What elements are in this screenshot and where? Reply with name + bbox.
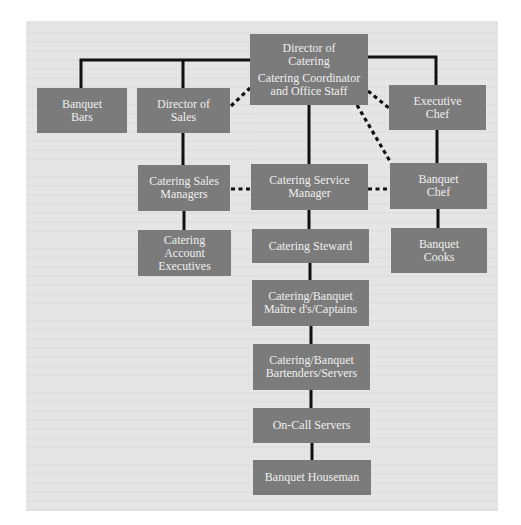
node-label: Catering Coordinator <box>258 72 360 85</box>
node-director-of-sales: Director of Sales <box>137 88 230 133</box>
node-bartenders-servers: Catering/Banquet Bartenders/Servers <box>253 344 370 390</box>
node-banquet-chef: Banquet Chef <box>390 163 487 209</box>
node-label: On-Call Servers <box>273 419 351 432</box>
node-label: Manager <box>288 187 331 200</box>
node-label: Maître d's/Captains <box>264 303 357 316</box>
node-director-of-catering: Director of Catering Catering Coordinato… <box>250 34 368 105</box>
node-label: Banquet <box>62 98 102 111</box>
node-label: Banquet <box>419 238 459 251</box>
node-maitre-d-captains: Catering/Banquet Maître d's/Captains <box>252 280 369 326</box>
node-label: Director of <box>157 98 210 111</box>
node-label: Executive <box>414 95 462 108</box>
node-label: Bartenders/Servers <box>266 367 357 380</box>
node-catering-account-executives: Catering Account Executives <box>138 230 231 276</box>
node-label: Catering <box>288 55 329 68</box>
node-label: and Office Staff <box>271 85 348 98</box>
node-on-call-servers: On-Call Servers <box>253 408 370 443</box>
node-catering-service-manager: Catering Service Manager <box>251 164 368 210</box>
node-label: Sales <box>171 111 196 124</box>
node-label: Cooks <box>424 251 455 264</box>
node-label: Account <box>164 247 205 260</box>
node-label: Managers <box>160 188 207 201</box>
node-label: Bars <box>71 111 93 124</box>
node-label: Chef <box>426 108 449 121</box>
node-banquet-cooks: Banquet Cooks <box>391 228 487 273</box>
node-label: Banquet Houseman <box>265 471 359 484</box>
node-label: Director of <box>283 42 336 55</box>
node-banquet-houseman: Banquet Houseman <box>253 460 371 495</box>
node-catering-sales-managers: Catering Sales Managers <box>138 165 230 211</box>
node-label: Catering Steward <box>269 240 353 253</box>
node-catering-steward: Catering Steward <box>252 229 369 263</box>
node-label: Executives <box>158 260 211 273</box>
node-label: Chef <box>427 186 450 199</box>
node-executive-chef: Executive Chef <box>389 85 486 130</box>
node-label: Catering <box>164 234 205 247</box>
node-banquet-bars: Banquet Bars <box>37 88 127 133</box>
